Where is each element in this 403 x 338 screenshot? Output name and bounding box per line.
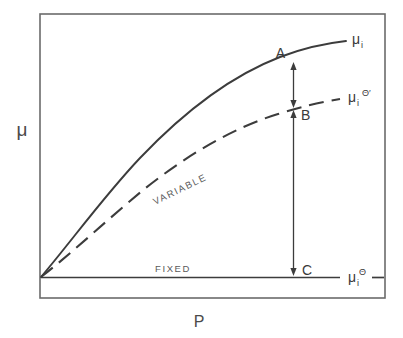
point-label-a: A	[276, 45, 286, 61]
plot-frame	[40, 14, 385, 298]
curve-label-mu-i-base: μ	[352, 31, 360, 47]
curve-label-mu-i: μ i	[352, 31, 363, 50]
x-axis-label: P	[194, 313, 205, 330]
curve-label-mu-i-standard-prime: μ i Θ′	[348, 88, 371, 108]
baseline-label-base: μ	[348, 269, 356, 285]
curve-label-prime-subscript: i	[357, 98, 359, 108]
point-label-c: C	[302, 262, 312, 278]
mu-i-solid-curve	[41, 41, 346, 277]
curve-label-prime-base: μ	[348, 89, 356, 105]
curve-label-prime-superscript: Θ′	[362, 88, 371, 98]
curve-label-mu-i-standard: μ i Θ	[348, 267, 366, 288]
region-label-variable: VARIABLE	[151, 171, 208, 207]
curve-label-mu-i-subscript: i	[361, 40, 363, 50]
baseline-label-subscript: i	[357, 278, 359, 288]
arrowhead-up-a	[290, 62, 296, 70]
y-axis-label: μ	[17, 119, 28, 140]
arrowhead-down-b	[290, 100, 296, 108]
figure-container: μ P A B C μ i μ i Θ′ μ i Θ VARIABLE FIXE…	[0, 0, 403, 338]
chemical-potential-diagram: μ P A B C μ i μ i Θ′ μ i Θ VARIABLE FIXE…	[0, 0, 403, 338]
baseline-label-superscript: Θ	[359, 267, 366, 277]
region-label-fixed: FIXED	[155, 263, 191, 274]
arrowhead-down-c	[290, 268, 296, 276]
point-label-b: B	[301, 107, 310, 123]
arrowhead-up-b	[290, 110, 296, 118]
